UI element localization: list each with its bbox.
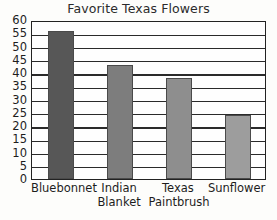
- y-axis-tick-label: 55: [12, 29, 27, 41]
- y-axis-tick-label: 25: [12, 108, 27, 120]
- plot-area: [31, 21, 266, 180]
- y-axis-tick-label: 10: [12, 148, 27, 160]
- bar: [48, 31, 74, 179]
- y-axis-tick-label: 40: [12, 68, 27, 80]
- y-axis-tick-label: 35: [12, 82, 27, 94]
- y-axis-tick-label: 20: [12, 121, 27, 133]
- y-axis-tick-label: 5: [20, 161, 27, 173]
- x-axis: BluebonnetIndianBlanketTexasPaintbrushSu…: [31, 182, 266, 220]
- y-axis-tick-label: 0: [20, 174, 27, 186]
- bar: [166, 78, 192, 179]
- y-axis-tick-label: 30: [12, 95, 27, 107]
- x-axis-tick-label: IndianBlanket: [90, 182, 149, 209]
- x-axis-tick-label: Sunflower: [207, 182, 266, 196]
- y-axis-tick-label: 60: [12, 15, 27, 27]
- y-axis: 051015202530354045505560: [0, 21, 29, 180]
- x-axis-tick-label: TexasPaintbrush: [149, 182, 208, 209]
- bar-chart: Favorite Texas Flowers 05101520253035404…: [0, 0, 277, 220]
- bars-layer: [32, 22, 265, 179]
- chart-title: Favorite Texas Flowers: [0, 1, 277, 16]
- y-axis-tick-label: 45: [12, 55, 27, 67]
- x-axis-tick-label: Bluebonnet: [31, 182, 90, 196]
- bar: [107, 65, 133, 179]
- y-axis-tick-label: 15: [12, 135, 27, 147]
- bar: [225, 115, 251, 179]
- y-axis-tick-label: 50: [12, 42, 27, 54]
